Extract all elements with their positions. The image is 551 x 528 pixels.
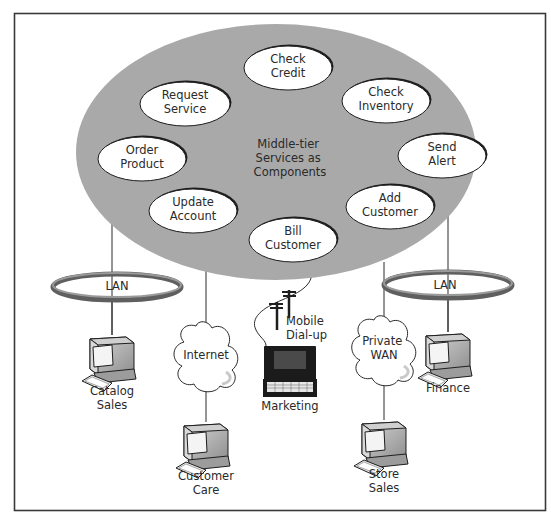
mobile-dialup-label-line: Mobile	[286, 314, 324, 328]
private-wan-cloud: Private WAN	[352, 316, 416, 386]
client-store-sales: StoreSales	[354, 422, 408, 495]
client-label-line: Customer	[178, 469, 234, 483]
hub-label-line: Services as	[256, 151, 321, 165]
internet-cloud: Internet	[174, 322, 238, 392]
component-label: OrderProduct	[120, 143, 164, 171]
hub-label-line: Components	[254, 165, 327, 179]
mobile-dialup-label: Mobile Dial-up	[286, 314, 327, 342]
client-customer-care: CustomerCare	[176, 424, 234, 497]
client-finance: Finance	[418, 334, 472, 395]
client-label-line: Sales	[97, 398, 128, 412]
component-label-line: Add	[379, 191, 401, 205]
component-label-line: Bill	[284, 224, 301, 238]
client-label: CustomerCare	[178, 469, 234, 497]
client-label-line: Care	[193, 483, 220, 497]
client-label: StoreSales	[369, 467, 400, 495]
network-diagram: Middle-tier Services as Components Check…	[0, 0, 551, 528]
component-label: UpdateAccount	[170, 195, 217, 223]
client-marketing: Marketing	[261, 399, 318, 413]
component-label-line: Customer	[362, 205, 418, 219]
component-label: SendAlert	[428, 140, 457, 168]
internet-label: Internet	[183, 348, 229, 362]
client-label: Finance	[426, 381, 470, 395]
private-wan-label-line: WAN	[370, 348, 397, 362]
component-label-line: Service	[164, 102, 207, 116]
component-label: RequestService	[162, 88, 209, 116]
component-label-line: Request	[162, 88, 209, 102]
component-label-line: Check	[270, 52, 306, 66]
lan-right-label: LAN	[433, 278, 456, 292]
component-label-line: Credit	[271, 66, 306, 80]
component-label-line: Account	[170, 209, 217, 223]
component-label: CheckCredit	[270, 52, 306, 80]
client-label-line: Finance	[426, 381, 470, 395]
laptop-icon	[263, 346, 317, 397]
client-catalog-sales: CatalogSales	[82, 337, 136, 412]
client-label-line: Catalog	[90, 384, 134, 398]
client-label-line: Marketing	[261, 399, 318, 413]
component-label-line: Product	[120, 157, 164, 171]
component-label-line: Check	[368, 85, 404, 99]
lan-ring-left: LAN	[53, 273, 181, 300]
desktop-computer-icon	[82, 337, 136, 391]
client-label-line: Store	[369, 467, 399, 481]
lan-left-label: LAN	[105, 279, 128, 293]
component-label-line: Send	[428, 140, 457, 154]
component-label-line: Order	[126, 143, 159, 157]
private-wan-label-line: Private	[362, 334, 402, 348]
hub-label-line: Middle-tier	[257, 137, 319, 151]
component-label-line: Inventory	[359, 99, 414, 113]
desktop-computer-icon	[418, 334, 472, 388]
component-label-line: Alert	[428, 154, 456, 168]
client-label: Marketing	[261, 399, 318, 413]
client-label-line: Sales	[369, 481, 400, 495]
component-label-line: Customer	[265, 238, 321, 252]
mobile-dialup-label-line: Dial-up	[286, 328, 327, 342]
hub-label: Middle-tier Services as Components	[254, 137, 327, 179]
component-label-line: Update	[172, 195, 214, 209]
client-label: CatalogSales	[90, 384, 134, 412]
